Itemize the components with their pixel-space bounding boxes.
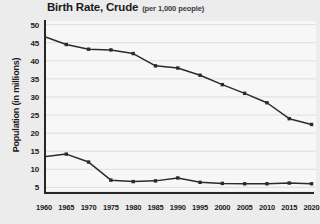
- data-point-marker: [198, 74, 201, 77]
- x-axis-ticks: 1960196519701975198019851990199520002005…: [0, 203, 320, 219]
- data-point-marker: [131, 52, 134, 55]
- data-point-marker: [87, 160, 90, 163]
- data-point-marker: [288, 117, 291, 120]
- y-tick-label: 40: [9, 56, 39, 65]
- x-tick-label: 2005: [237, 203, 253, 212]
- y-tick-label: 50: [9, 20, 39, 29]
- plot-area: [44, 21, 316, 191]
- data-point-marker: [221, 83, 224, 86]
- x-tick-label: 2015: [281, 203, 297, 212]
- data-point-marker: [265, 101, 268, 104]
- data-point-marker: [131, 180, 134, 183]
- data-point-marker: [176, 66, 179, 69]
- data-point-marker: [310, 182, 313, 185]
- x-tick-label: 1960: [36, 203, 52, 212]
- series-upper-series: [44, 35, 313, 126]
- x-tick-label: 1970: [81, 203, 97, 212]
- data-point-marker: [243, 92, 246, 95]
- data-point-marker: [109, 178, 112, 181]
- y-tick-label: 10: [9, 165, 39, 174]
- data-point-marker: [288, 181, 291, 184]
- data-point-marker: [265, 182, 268, 185]
- y-axis-ticks: 5045403530252015105: [9, 0, 39, 224]
- data-point-marker: [221, 182, 224, 185]
- x-tick-label: 1985: [148, 203, 164, 212]
- data-point-marker: [65, 152, 68, 155]
- data-point-marker: [154, 64, 157, 67]
- y-tick-label: 5: [9, 183, 39, 192]
- data-point-marker: [243, 182, 246, 185]
- data-point-marker: [154, 179, 157, 182]
- y-axis-line: [44, 20, 46, 193]
- x-tick-label: 1980: [125, 203, 141, 212]
- x-tick-label: 2020: [304, 203, 320, 212]
- data-point-marker: [65, 43, 68, 46]
- y-tick-label: 25: [9, 111, 39, 120]
- data-point-marker: [176, 176, 179, 179]
- x-axis-line: [44, 192, 314, 194]
- x-tick-label: 1975: [103, 203, 119, 212]
- series-line: [44, 37, 312, 125]
- birth-rate-chart: Birth Rate, Crude (per 1,000 people) Pop…: [0, 0, 320, 224]
- x-tick-label: 2000: [214, 203, 230, 212]
- chart-title-main: Birth Rate, Crude: [47, 1, 138, 13]
- x-tick-label: 1990: [170, 203, 186, 212]
- y-tick-label: 20: [9, 129, 39, 138]
- y-tick-label: 35: [9, 74, 39, 83]
- x-tick-label: 1995: [192, 203, 208, 212]
- data-point-marker: [310, 123, 313, 126]
- data-series-layer: [44, 35, 313, 186]
- chart-title: Birth Rate, Crude (per 1,000 people): [47, 1, 204, 13]
- y-tick-label: 45: [9, 38, 39, 47]
- plot-svg: [44, 21, 316, 191]
- x-tick-label: 2010: [259, 203, 275, 212]
- data-point-marker: [109, 48, 112, 51]
- y-tick-label: 15: [9, 147, 39, 156]
- y-tick-label: 30: [9, 92, 39, 101]
- chart-title-subtitle: (per 1,000 people): [142, 4, 204, 13]
- x-tick-label: 1965: [58, 203, 74, 212]
- data-point-marker: [198, 181, 201, 184]
- data-point-marker: [87, 48, 90, 51]
